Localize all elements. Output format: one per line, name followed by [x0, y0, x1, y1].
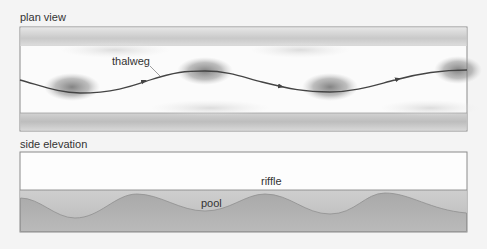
side-elevation-title: side elevation — [20, 139, 87, 150]
bottom-bank — [21, 113, 467, 131]
pool-label: pool — [201, 198, 222, 209]
top-bank — [21, 28, 467, 46]
plan-view-panel — [20, 27, 482, 131]
side-elevation-panel — [20, 152, 467, 232]
thalweg-label: thalweg — [112, 56, 150, 67]
riffle-label: riffle — [261, 176, 282, 187]
plan-view-title: plan view — [20, 12, 66, 23]
point-bar — [150, 100, 270, 116]
point-bar — [250, 42, 350, 58]
diagram-canvas — [0, 0, 487, 249]
pool-blob — [44, 73, 100, 101]
point-bar — [380, 100, 480, 116]
pool-blob — [302, 73, 358, 101]
